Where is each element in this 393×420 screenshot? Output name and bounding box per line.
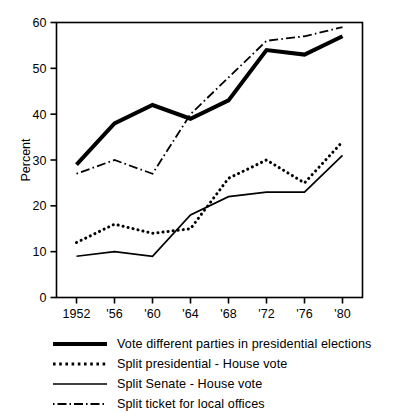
y-axis-title: Percent — [19, 138, 33, 182]
x-tick-label: 1952 — [63, 307, 91, 321]
y-axis-tick-labels: 0102030405060 — [33, 16, 47, 305]
x-tick-label: '60 — [144, 307, 160, 321]
line-chart-svg: 0102030405060 1952'56'60'64'68'72'76'80 … — [0, 0, 393, 320]
x-tick-label: '68 — [220, 307, 236, 321]
series-line-2 — [77, 155, 343, 256]
x-tick-label: '64 — [182, 307, 198, 321]
x-tick-label: '80 — [334, 307, 350, 321]
legend-item-split-ticket-local: Split ticket for local offices — [0, 394, 393, 414]
thin-solid-line-sample — [52, 377, 108, 391]
legend-label-split-senate-house: Split Senate - House vote — [117, 377, 262, 391]
dash-dot-line-sample — [52, 397, 108, 411]
legend-item-vote-different-parties: Vote different parties in presidential e… — [0, 334, 393, 354]
x-axis-tick-labels: 1952'56'60'64'68'72'76'80 — [63, 307, 351, 321]
x-tick-label: '76 — [296, 307, 312, 321]
plot-frame — [57, 23, 363, 298]
x-axis-ticks — [77, 298, 343, 304]
legend-label-split-presidential-house: Split presidential - House vote — [117, 357, 287, 371]
series-line-0 — [77, 36, 343, 164]
y-tick-label: 30 — [33, 154, 47, 168]
data-series-group — [77, 27, 343, 256]
dotted-line-sample — [52, 357, 108, 371]
y-axis-ticks — [51, 23, 57, 298]
y-tick-label: 20 — [33, 199, 47, 213]
legend-item-split-presidential-house: Split presidential - House vote — [0, 354, 393, 374]
thick-solid-line-sample — [52, 337, 108, 351]
chart-legend: Vote different parties in presidential e… — [0, 334, 393, 420]
y-tick-label: 0 — [40, 291, 47, 305]
y-tick-label: 60 — [33, 16, 47, 30]
legend-item-split-senate-house: Split Senate - House vote — [0, 374, 393, 394]
series-line-3 — [77, 27, 343, 174]
legend-label-split-ticket-local: Split ticket for local offices — [117, 397, 265, 411]
y-tick-label: 50 — [33, 62, 47, 76]
plot-area: 0102030405060 1952'56'60'64'68'72'76'80 … — [0, 0, 393, 320]
legend-label-vote-different-parties: Vote different parties in presidential e… — [117, 337, 372, 351]
chart-figure: 0102030405060 1952'56'60'64'68'72'76'80 … — [0, 0, 393, 420]
x-tick-label: '72 — [258, 307, 274, 321]
y-tick-label: 40 — [33, 108, 47, 122]
x-tick-label: '56 — [106, 307, 122, 321]
y-tick-label: 10 — [33, 245, 47, 259]
